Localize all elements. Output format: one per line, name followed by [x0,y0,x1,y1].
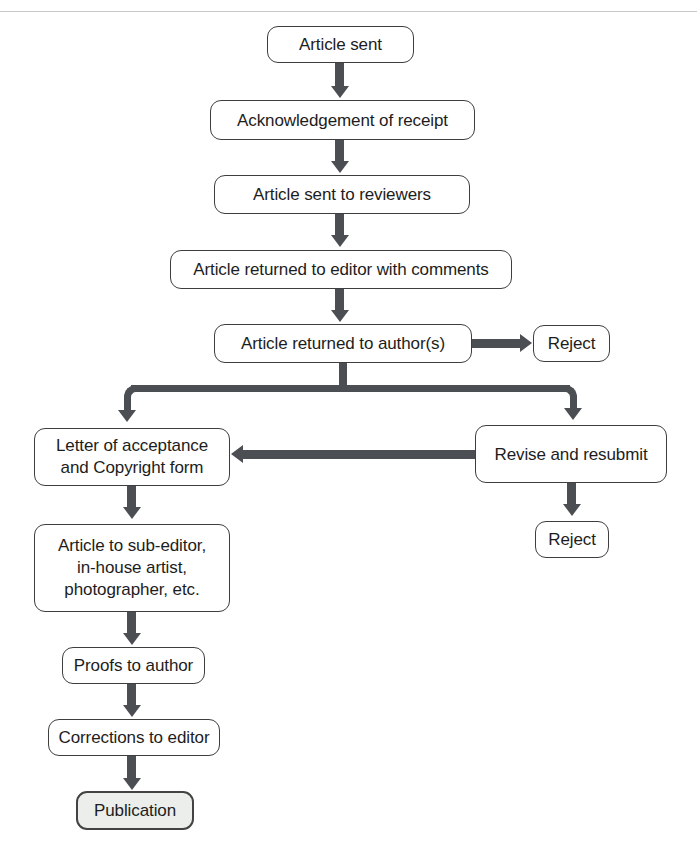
connector-acknowledgement-to-reviewers [335,140,344,162]
clipped-header-text [0,0,697,9]
connector-revise-to-letter [243,450,475,459]
arrowhead-down-8 [123,705,141,717]
arrowhead-down-1 [331,86,349,98]
header-divider [0,11,697,12]
node-proofs-to-author[interactable]: Proofs to author [62,647,205,684]
node-article-returned-to-editor[interactable]: Article returned to editor with comments [170,250,512,289]
arrowhead-left-1 [231,445,243,463]
node-corrections-to-editor[interactable]: Corrections to editor [48,719,220,756]
arrowhead-down-3 [331,235,349,247]
node-revise-and-resubmit[interactable]: Revise and resubmit [475,425,667,483]
connector-fork-bar [131,385,570,392]
node-article-returned-to-author[interactable]: Article returned to author(s) [214,324,472,363]
node-acknowledgement-of-receipt[interactable]: Acknowledgement of receipt [210,100,475,140]
connector-article-sent-to-acknowledgement [335,63,344,87]
connector-reviewers-to-editor [335,214,344,236]
connector-corrections-to-publication [127,756,136,779]
arrowhead-down-6 [123,507,141,519]
flowchart-canvas: Article sent Acknowledgement of receipt … [0,0,697,854]
node-reject-2[interactable]: Reject [535,521,609,558]
connector-author-to-reject-1 [472,339,521,348]
connector-letter-to-sub-editor [127,486,136,508]
arrowhead-down-5 [563,504,581,516]
node-article-to-sub-editor[interactable]: Article to sub-editor, in-house artist, … [34,524,230,612]
arrowhead-down-4 [331,310,349,322]
node-article-sent[interactable]: Article sent [267,26,414,63]
arrowhead-right-1 [520,334,532,352]
arrowhead-down-2 [331,161,349,173]
arrowhead-down-7 [123,633,141,645]
node-reject-1[interactable]: Reject [533,325,610,362]
arrowhead-down-fork-left [118,410,136,422]
connector-proofs-to-corrections [127,684,136,706]
connector-editor-to-author [335,289,344,311]
arrowhead-down-fork-right [564,408,582,420]
node-article-sent-to-reviewers[interactable]: Article sent to reviewers [214,175,470,214]
connector-revise-to-reject-2 [567,483,576,505]
node-publication[interactable]: Publication [76,791,194,830]
node-letter-of-acceptance[interactable]: Letter of acceptance and Copyright form [34,428,230,486]
connector-sub-editor-to-proofs [127,612,136,634]
arrowhead-down-9 [123,778,141,790]
